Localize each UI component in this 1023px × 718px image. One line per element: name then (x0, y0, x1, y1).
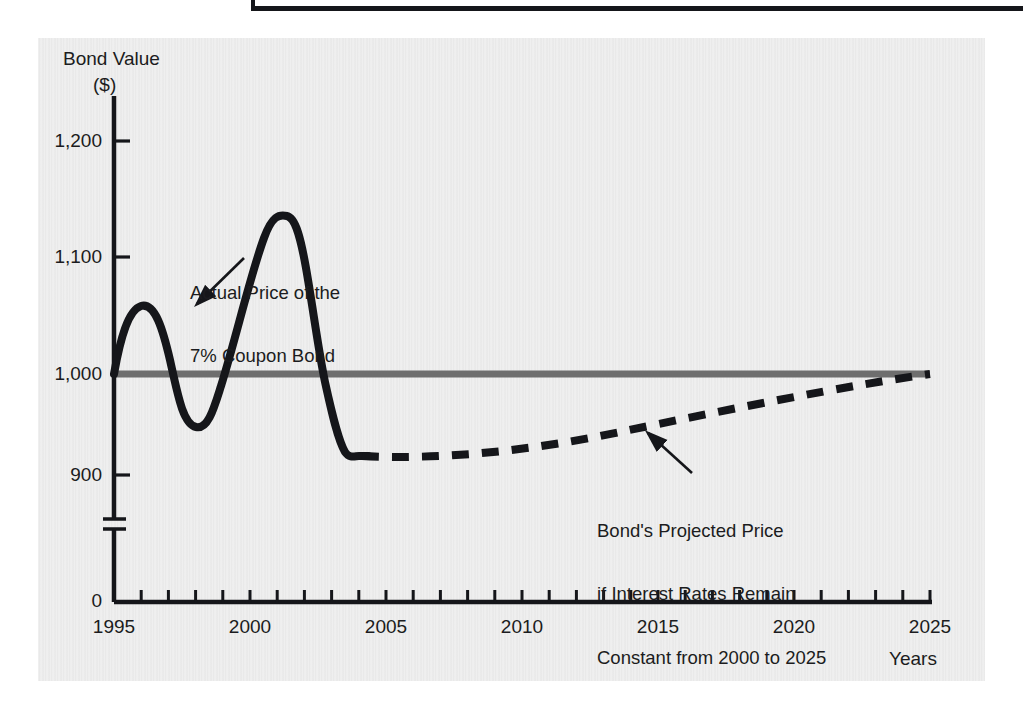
y-tick-label-0: 0 (18, 590, 102, 612)
x-tick-label-2005: 2005 (341, 616, 431, 638)
annotation-projected-price: Bond's Projected Price if Interest Rates… (597, 478, 826, 689)
annotation-actual-price-line2: 7% Coupon Bond (190, 345, 340, 366)
y-tick-label-1100: 1,100 (18, 246, 102, 268)
y-tick-label-1200: 1,200 (18, 130, 102, 152)
annotation-actual-price: Actual Price of the 7% Coupon Bond (190, 240, 340, 388)
x-tick-label-2010: 2010 (477, 616, 567, 638)
y-tick-label-900: 900 (18, 464, 102, 486)
x-axis-title: Years (889, 648, 937, 670)
x-tick-label-1995: 1995 (69, 616, 159, 638)
annotation-projected-price-line3: Constant from 2000 to 2025 (597, 647, 826, 668)
y-axis-title-line1: Bond Value (63, 48, 160, 70)
x-tick-label-2025: 2025 (885, 616, 975, 638)
annotation-actual-price-line1: Actual Price of the (190, 282, 340, 303)
top-rule-left-cap (251, 0, 255, 11)
x-tick-label-2000: 2000 (205, 616, 295, 638)
top-rule-divider (251, 6, 1023, 11)
chart-figure-panel (38, 38, 985, 681)
y-axis-title-line2: ($) (93, 74, 116, 96)
annotation-projected-price-line1: Bond's Projected Price (597, 520, 826, 541)
annotation-projected-price-line2: if Interest Rates Remain (597, 583, 826, 604)
y-tick-label-1000: 1,000 (18, 363, 102, 385)
